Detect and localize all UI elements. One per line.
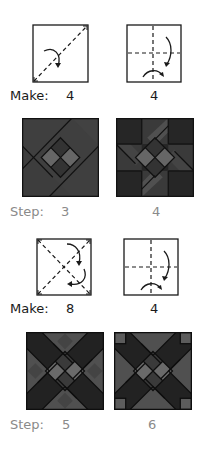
quilt-block-step-6: [114, 332, 192, 410]
make-label: Make:: [10, 88, 49, 103]
quilt-block-step-5: [26, 332, 104, 410]
quilt-block-step-4: [116, 118, 194, 197]
step-number: 6: [148, 417, 156, 432]
fold-diagram-diagonal: [32, 24, 90, 84]
make-quantity: 4: [150, 88, 158, 103]
step-label: Step:: [10, 417, 44, 432]
make-quantity: 4: [150, 301, 158, 316]
step-number: 5: [62, 417, 70, 432]
quilt-block-step-3: [22, 118, 99, 197]
fold-diagram-cross: [123, 238, 180, 297]
make-quantity: 4: [66, 88, 74, 103]
fold-diagram-cross: [126, 24, 184, 84]
step-number: 3: [61, 204, 69, 219]
make-quantity: 8: [66, 301, 74, 316]
fold-diagram-double-diagonal: [36, 238, 93, 297]
make-label: Make:: [10, 301, 49, 316]
step-number: 4: [152, 204, 160, 219]
step-label: Step:: [10, 204, 44, 219]
